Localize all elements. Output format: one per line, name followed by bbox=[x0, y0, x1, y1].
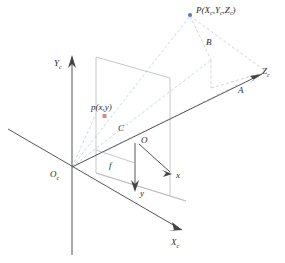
ray-oc-to-B bbox=[72, 60, 211, 167]
label-origin-camera: Oc bbox=[50, 169, 60, 181]
label-point-B: B bbox=[206, 37, 212, 47]
label-point-C: C bbox=[118, 123, 125, 133]
axis-zc-group bbox=[72, 74, 262, 167]
axis-zc-arrowhead bbox=[249, 74, 262, 83]
dash-P-to-Zc bbox=[190, 16, 264, 70]
projection-rays-group bbox=[72, 16, 240, 167]
label-axis-yc: Yc bbox=[54, 58, 62, 70]
label-point-P: P(Xc,Yc,Zc) bbox=[195, 5, 236, 16]
label-point-A: A bbox=[237, 85, 244, 95]
label-axis-xc: Xc bbox=[170, 237, 180, 249]
ray-oc-to-P bbox=[72, 16, 190, 167]
label-point-p: p(x,y) bbox=[90, 102, 112, 112]
axis-zc-line bbox=[72, 74, 262, 167]
label-image-axis-y: y bbox=[139, 188, 144, 198]
axis-image-x-group bbox=[139, 144, 172, 177]
image-plane bbox=[96, 57, 170, 196]
label-axis-zc: Zc bbox=[262, 66, 270, 78]
axis-yc-group bbox=[68, 55, 76, 255]
axis-image-x-line bbox=[139, 144, 170, 172]
label-image-axis-x: x bbox=[175, 170, 180, 180]
axis-xc-line bbox=[8, 129, 182, 230]
ground-line-right bbox=[170, 196, 186, 201]
label-principal-point: O bbox=[141, 135, 148, 145]
focal-length-segment bbox=[96, 150, 135, 163]
camera-model-diagram: P(Xc,Yc,Zc) p(x,y) Oc Xc Yc Zc A B C O f… bbox=[0, 0, 285, 263]
diagram-canvas: P(Xc,Yc,Zc) p(x,y) Oc Xc Yc Zc A B C O f… bbox=[0, 0, 285, 263]
axis-image-x-arrowhead bbox=[162, 170, 172, 177]
point-P-marker bbox=[188, 13, 192, 17]
label-focal-length: f bbox=[109, 160, 113, 170]
point-p-marker bbox=[103, 114, 107, 118]
axis-xc-group bbox=[8, 129, 182, 231]
